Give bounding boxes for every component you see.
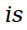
text-fragment: is (0, 0, 27, 30)
italic-word: is (5, 1, 23, 29)
